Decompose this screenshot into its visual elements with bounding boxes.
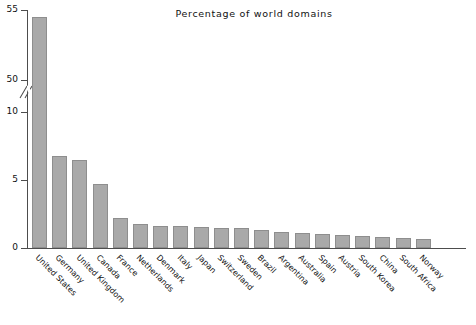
y-tick-0: 0 xyxy=(21,248,27,249)
y-tick-10: 10 xyxy=(21,112,27,113)
bar xyxy=(416,239,431,248)
bar xyxy=(113,218,128,248)
y-tick-label: 55 xyxy=(7,4,18,15)
bar xyxy=(335,235,350,248)
bar xyxy=(254,230,269,248)
bar xyxy=(72,160,87,248)
chart-container: Percentage of world domains 05105055 Uni… xyxy=(0,0,476,325)
bar xyxy=(274,232,289,248)
bar xyxy=(32,17,47,248)
plot-area: 05105055 United StatesGermanyUnited King… xyxy=(0,0,476,325)
y-tick-label: 5 xyxy=(12,174,18,185)
y-axis-line xyxy=(27,10,28,249)
bar xyxy=(295,233,310,248)
bar xyxy=(194,227,209,248)
y-tick-label: 10 xyxy=(7,106,18,117)
y-tick-5: 5 xyxy=(21,180,27,181)
bar xyxy=(133,224,148,248)
x-axis-label: Italy xyxy=(175,253,194,272)
bar xyxy=(315,234,330,248)
bar xyxy=(153,226,168,248)
bar xyxy=(234,228,249,248)
bar xyxy=(355,236,370,248)
bar xyxy=(214,228,229,248)
bar xyxy=(93,184,108,248)
y-tick-55: 55 xyxy=(21,10,27,11)
bar xyxy=(52,156,67,248)
x-axis-line xyxy=(27,248,466,249)
bar xyxy=(173,226,188,248)
y-tick-label: 0 xyxy=(12,242,18,253)
x-axis-label: Japan xyxy=(195,253,217,275)
y-tick-label: 50 xyxy=(7,74,18,85)
bar xyxy=(375,237,390,248)
bar xyxy=(396,238,411,248)
